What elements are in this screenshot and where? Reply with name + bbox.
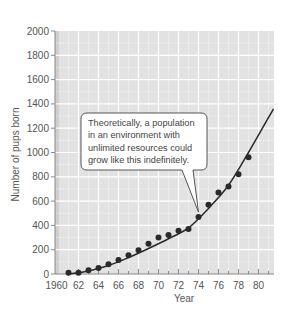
data-point: [66, 270, 72, 276]
x-tick-label: 72: [173, 280, 185, 291]
data-point: [196, 214, 202, 220]
data-point: [206, 202, 212, 208]
y-tick-label: 800: [32, 171, 49, 182]
x-tick-label: 68: [133, 280, 145, 291]
data-point: [136, 247, 142, 253]
x-tick-label: 80: [253, 280, 265, 291]
data-point: [186, 226, 192, 232]
y-tick-label: 1400: [27, 98, 50, 109]
x-tick-label: 1960: [45, 280, 68, 291]
x-tick-label: 66: [113, 280, 125, 291]
callout-text-line: Theoretically, a population: [88, 118, 195, 128]
y-tick-label: 400: [32, 220, 49, 231]
x-tick-label: 62: [73, 280, 85, 291]
y-axis: 0200400600800100012001400160018002000: [27, 26, 55, 280]
x-axis-title: Year: [174, 293, 195, 304]
y-axis-title: Number of pups born: [10, 108, 21, 202]
chart: 0200400600800100012001400160018002000 19…: [0, 0, 284, 318]
y-tick-label: 2000: [27, 26, 50, 37]
data-point: [236, 171, 242, 177]
data-point: [146, 241, 152, 247]
x-tick-label: 78: [233, 280, 245, 291]
y-tick-label: 200: [32, 244, 49, 255]
x-tick-label: 64: [93, 280, 105, 291]
x-tick-label: 76: [213, 280, 225, 291]
y-tick-label: 0: [43, 269, 49, 280]
data-point: [106, 261, 112, 267]
y-tick-label: 1000: [27, 147, 50, 158]
y-tick-label: 1600: [27, 74, 50, 85]
data-point: [126, 252, 132, 258]
y-tick-label: 1200: [27, 123, 50, 134]
y-tick-label: 1800: [27, 50, 50, 61]
x-tick-label: 74: [193, 280, 205, 291]
data-point: [96, 265, 102, 271]
data-point: [246, 154, 252, 160]
data-point: [156, 235, 162, 241]
data-point: [226, 184, 232, 190]
data-point: [176, 228, 182, 234]
callout-text-line: in an environment with: [88, 130, 180, 140]
data-point: [86, 267, 92, 273]
data-point: [116, 257, 122, 263]
x-tick-label: 70: [153, 280, 165, 291]
data-point: [76, 270, 82, 276]
data-point: [216, 190, 222, 196]
y-tick-label: 600: [32, 196, 49, 207]
data-point: [166, 232, 172, 238]
callout-text-line: grow like this indefinitely.: [88, 155, 189, 165]
callout-text-line: unlimited resources could: [88, 143, 192, 153]
